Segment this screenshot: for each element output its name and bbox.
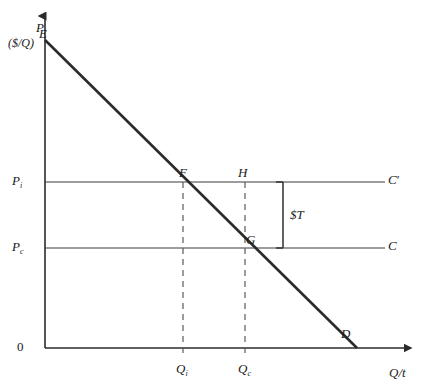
- y-tick-label-pi: Pi: [12, 174, 22, 187]
- point-label-f: F: [179, 166, 187, 179]
- y-tick-pc-sub: c: [20, 247, 24, 256]
- y-tick-label-pc: Pc: [12, 240, 24, 253]
- x-tick-qc-sub: c: [247, 369, 251, 378]
- y-axis-units: ($/Q): [8, 37, 34, 49]
- x-axis-symbol: Q/t: [389, 366, 406, 379]
- curve-label-c: C: [388, 239, 397, 252]
- x-tick-label-qc: Qc: [238, 362, 251, 375]
- tax-bracket-icon: [276, 182, 283, 248]
- supply-demand-tariff-diagram: P ($/Q) Q/t 0 Pi Pc Qi Qc E F H G D C′ C…: [0, 0, 432, 390]
- diagram-canvas: [0, 0, 432, 390]
- x-tick-qi-base: Q: [176, 361, 185, 376]
- point-label-h: H: [238, 166, 247, 179]
- x-tick-qc-base: Q: [238, 361, 247, 376]
- y-tick-pi-base: P: [12, 173, 20, 188]
- x-tick-label-qi: Qi: [176, 362, 188, 375]
- point-label-d: D: [341, 327, 350, 340]
- x-tick-qi-sub: i: [185, 369, 187, 378]
- curve-label-c-prime: C′: [388, 173, 400, 186]
- curve-label-c-prime-base: C: [388, 172, 397, 187]
- prime-mark-icon: ′: [397, 172, 400, 187]
- tax-label: $T: [290, 208, 304, 221]
- origin-label: 0: [17, 340, 24, 353]
- point-label-e: E: [39, 27, 47, 40]
- y-tick-pi-sub: i: [20, 181, 22, 190]
- y-tick-pc-base: P: [12, 239, 20, 254]
- point-label-g: G: [246, 233, 255, 246]
- demand-curve: [45, 40, 357, 348]
